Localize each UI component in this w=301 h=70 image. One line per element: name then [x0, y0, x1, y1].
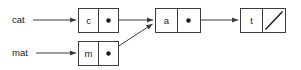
node-m: m: [79, 42, 119, 66]
variable-label-cat: cat: [12, 14, 25, 25]
node-m-pointer-dot: [106, 51, 110, 55]
node-t-char: t: [250, 15, 253, 26]
node-a-pointer-dot: [186, 18, 190, 22]
node-a-char: a: [164, 15, 170, 26]
node-t: t: [241, 9, 286, 33]
edge-group: [33, 20, 238, 53]
linked-list-diagram: c a t m cat mat: [0, 0, 301, 70]
diagram-canvas: c a t m cat mat: [0, 0, 301, 70]
node-c: c: [79, 9, 119, 33]
node-c-pointer-dot: [106, 18, 110, 22]
variable-label-mat: mat: [12, 47, 28, 58]
node-c-char: c: [86, 15, 91, 26]
node-m-char: m: [85, 48, 93, 59]
node-a: a: [156, 9, 201, 33]
